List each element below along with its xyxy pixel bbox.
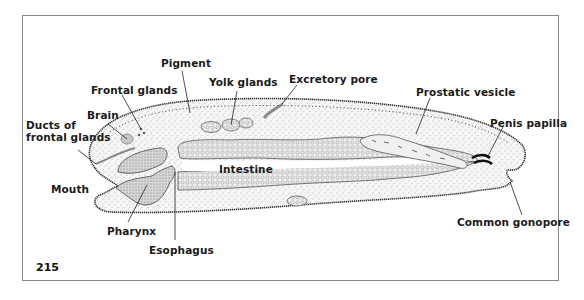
gland-body-lower xyxy=(287,196,307,206)
label-intestine: Intestine xyxy=(219,163,273,175)
flatworm-diagram xyxy=(0,0,584,300)
yolk-gland xyxy=(201,122,221,133)
label-pharynx: Pharynx xyxy=(107,225,156,237)
label-penis-papilla: Penis papilla xyxy=(490,117,567,129)
label-frontal-glands: Frontal glands xyxy=(91,84,178,96)
label-mouth: Mouth xyxy=(51,183,89,195)
label-prostatic-vesicle: Prostatic vesicle xyxy=(416,86,515,98)
label-brain: Brain xyxy=(87,109,119,121)
label-excretory-pore: Excretory pore xyxy=(289,73,378,85)
label-common-gonopore: Common gonopore xyxy=(457,216,570,228)
label-pigment: Pigment xyxy=(161,57,211,69)
label-esophagus: Esophagus xyxy=(149,244,214,256)
yolk-gland xyxy=(239,118,253,128)
label-ducts-line1: Ducts of xyxy=(26,119,76,131)
label-yolk-glands: Yolk glands xyxy=(209,76,278,88)
label-ducts-line2: frontal glands xyxy=(26,131,111,143)
figure-number: 215 xyxy=(36,261,59,274)
